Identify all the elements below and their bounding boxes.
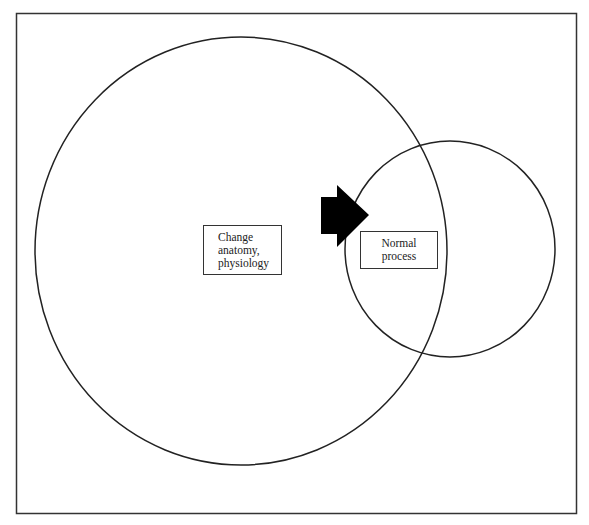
label-line: process [361,250,437,263]
label-line: physiology [218,257,281,270]
label-change-anatomy-physiology: Change anatomy, physiology [203,225,282,275]
label-normal-process: Normal process [360,231,438,269]
diagram-svg [0,0,589,525]
frame-border [17,14,577,514]
label-line: Normal [361,237,437,250]
label-line: anatomy, [218,244,281,257]
diagram-canvas: Change anatomy, physiology Normal proces… [0,0,589,525]
label-line: Change [218,231,281,244]
